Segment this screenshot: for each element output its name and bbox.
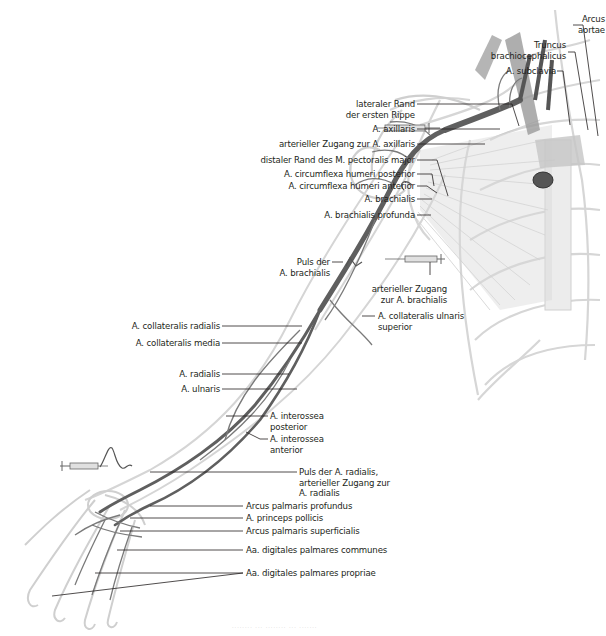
label-circumflexa-anterior: A. circumflexa humeri anterior <box>200 181 415 192</box>
label-arcus-superficialis: Arcus palmaris superficialis <box>246 526 360 537</box>
aortic-arch-section <box>533 172 553 188</box>
label-a-ulnaris: A. ulnaris <box>140 384 220 395</box>
label-line: superior <box>378 322 464 333</box>
label-arcus-profundus: Arcus palmaris profundus <box>246 501 352 512</box>
label-brachialis-profunda: A. brachialis profunda <box>250 210 415 221</box>
label-line: A. radialis <box>299 488 390 499</box>
hand-bones <box>25 490 145 629</box>
label-line: der ersten Rippe <box>250 110 415 121</box>
label-puls-brachialis: Puls der A. brachialis <box>270 257 330 278</box>
label-line: arterieller Zugang zur <box>299 478 390 489</box>
label-princeps-pollicis: A. princeps pollicis <box>246 513 323 524</box>
label-line: A. brachialis <box>270 268 330 279</box>
label-digitales-communes: Aa. digitales palmares communes <box>246 545 387 556</box>
anatomy-diagram: Arcus aortae Truncus brachiocephalicus A… <box>0 0 606 636</box>
label-collateralis-ulnaris-superior: A. collateralis ulnaris superior <box>378 311 464 332</box>
label-collateralis-media: A. collateralis media <box>100 338 220 349</box>
label-line: arterieller Zugang <box>365 284 447 295</box>
label-truncus-brachiocephalicus: Truncus brachiocephalicus <box>470 40 566 61</box>
label-circumflexa-posterior: A. circumflexa humeri posterior <box>200 169 415 180</box>
label-zugang-axillaris: arterieller Zugang zur A. axillaris <box>200 139 415 150</box>
label-line: aortae <box>575 25 605 36</box>
label-line: A. interossea <box>270 434 324 445</box>
label-line: A. collateralis ulnaris <box>378 311 464 322</box>
label-a-subclavia: A. subclavia <box>470 66 556 77</box>
label-a-axillaris: A. axillaris <box>250 124 415 135</box>
label-zugang-brachialis: arterieller Zugang zur A. brachialis <box>365 284 447 305</box>
label-line: Truncus <box>470 40 566 51</box>
label-interossea-anterior: A. interossea anterior <box>270 434 324 455</box>
figure-caption: ········ ··· ········ ··· ······· <box>232 624 317 630</box>
label-line: Arcus <box>575 14 605 25</box>
label-line: lateraler Rand <box>250 99 415 110</box>
label-a-brachialis: A. brachialis <box>250 194 415 205</box>
arm-artery-illustration <box>0 0 606 636</box>
label-interossea-posterior: A. interossea posterior <box>270 411 324 432</box>
label-a-radialis: A. radialis <box>140 369 220 380</box>
syringe-icon <box>385 254 445 264</box>
label-line: Puls der A. radialis, <box>299 467 390 478</box>
label-distaler-rand: distaler Rand des M. pectoralis major <box>200 155 415 166</box>
label-puls-radialis: Puls der A. radialis, arterieller Zugang… <box>299 467 390 499</box>
label-line: anterior <box>270 445 324 456</box>
label-digitales-propriae: Aa. digitales palmares propriae <box>246 568 376 579</box>
label-arcus-aortae: Arcus aortae <box>575 14 605 35</box>
label-line: A. interossea <box>270 411 324 422</box>
pectoralis-shading <box>420 125 552 310</box>
label-collateralis-radialis: A. collateralis radialis <box>100 321 220 332</box>
label-line: zur A. brachialis <box>365 295 447 306</box>
label-lateraler-rand: lateraler Rand der ersten Rippe <box>250 99 415 120</box>
label-line: brachiocephalicus <box>470 51 566 62</box>
label-line: posterior <box>270 422 324 433</box>
label-line: Puls der <box>270 257 330 268</box>
